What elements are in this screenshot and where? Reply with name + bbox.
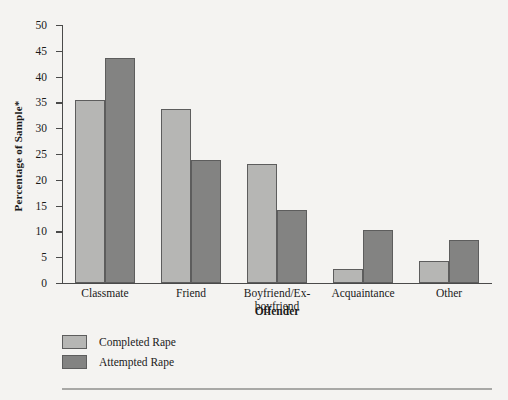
bar-group: Classmate: [62, 25, 148, 283]
y-tick-label: 30: [36, 122, 48, 134]
y-tick-label: 15: [36, 200, 48, 212]
footer-divider: [62, 388, 492, 390]
y-tick: 0: [56, 283, 62, 284]
bar: [75, 100, 105, 283]
y-tick-label: 40: [36, 71, 48, 83]
x-axis-title: Offender: [62, 305, 492, 317]
legend-item-completed: Completed Rape: [62, 333, 176, 350]
legend-label-completed: Completed Rape: [99, 336, 176, 348]
y-tick-label: 50: [36, 19, 48, 31]
plot-area: 05101520253035404550 ClassmateFriendBoyf…: [62, 25, 492, 283]
bar: [449, 240, 479, 283]
bar-group: Other: [406, 25, 492, 283]
bar-group: Friend: [148, 25, 234, 283]
bar: [105, 58, 135, 283]
legend-swatch-attempted: [62, 355, 87, 369]
y-axis-title: Percentage of Sample*: [12, 56, 24, 256]
legend-label-attempted: Attempted Rape: [99, 356, 174, 368]
y-tick-label: 25: [36, 148, 48, 160]
x-axis-line: [62, 283, 492, 284]
chart-legend: Completed Rape Attempted Rape: [62, 333, 176, 373]
x-tick-label: Other: [436, 287, 462, 300]
bar: [363, 230, 393, 283]
bar: [191, 160, 221, 283]
y-tick-label: 0: [41, 277, 47, 289]
legend-item-attempted: Attempted Rape: [62, 353, 176, 370]
bar: [419, 261, 449, 283]
x-tick-label: Classmate: [81, 287, 128, 300]
legend-swatch-completed: [62, 335, 87, 349]
x-tick-label: Acquaintance: [331, 287, 394, 300]
bar: [277, 210, 307, 283]
bar-chart: Percentage of Sample* 051015202530354045…: [0, 0, 508, 400]
bar-group: Boyfriend/Ex- boyfriend: [234, 25, 320, 283]
x-tick-label: Friend: [176, 287, 206, 300]
y-tick-label: 5: [41, 251, 47, 263]
y-tick-label: 20: [36, 174, 48, 186]
y-tick-label: 10: [36, 225, 48, 237]
y-tick-label: 45: [36, 45, 48, 57]
bar-group: Acquaintance: [320, 25, 406, 283]
y-tick-label: 35: [36, 96, 48, 108]
bar: [247, 164, 277, 283]
bar: [333, 269, 363, 283]
bar: [161, 109, 191, 283]
